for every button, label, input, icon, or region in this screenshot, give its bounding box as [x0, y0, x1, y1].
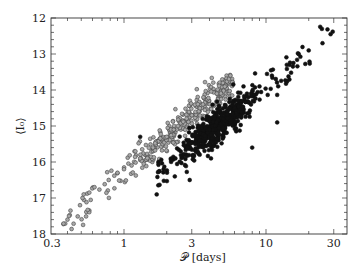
data-point [208, 117, 212, 121]
data-point [113, 186, 117, 190]
data-point [285, 63, 289, 67]
data-point [251, 88, 255, 92]
data-point [258, 98, 262, 102]
data-point [103, 182, 107, 186]
data-point [180, 112, 184, 116]
data-point [269, 68, 273, 72]
data-point [228, 97, 232, 101]
data-point [228, 89, 232, 93]
data-point [276, 84, 280, 88]
x-tick-label: 1 [121, 237, 128, 250]
data-point [87, 191, 91, 195]
data-point [184, 107, 188, 111]
data-point [239, 91, 243, 95]
data-point [191, 134, 195, 138]
data-point [117, 179, 121, 183]
data-point [159, 158, 163, 162]
data-point [134, 149, 138, 153]
data-point [270, 74, 274, 78]
data-point [224, 98, 228, 102]
data-point [93, 185, 97, 189]
data-point [188, 126, 192, 130]
data-point [289, 71, 293, 75]
data-point [287, 75, 291, 79]
data-point [215, 137, 219, 141]
data-point [251, 83, 255, 87]
data-point [219, 97, 223, 101]
data-point [72, 222, 76, 226]
data-point [307, 49, 311, 53]
data-point [217, 84, 221, 88]
data-point [187, 130, 191, 134]
data-point [139, 153, 143, 157]
data-point [246, 100, 250, 104]
data-point [198, 114, 202, 118]
data-point [202, 95, 206, 99]
data-point [70, 227, 74, 231]
data-point [62, 222, 66, 226]
data-point [152, 155, 156, 159]
data-point [210, 76, 214, 80]
data-point [174, 107, 178, 111]
data-point [173, 175, 177, 179]
data-point [239, 114, 243, 118]
data-point [157, 169, 161, 173]
y-tick-label: 18 [32, 228, 46, 241]
y-tick-label: 13 [32, 48, 46, 61]
data-point [209, 157, 213, 161]
data-point [231, 83, 235, 87]
data-point [84, 215, 88, 219]
data-point [185, 154, 189, 158]
data-point [208, 128, 212, 132]
data-point [165, 135, 169, 139]
data-point [242, 85, 246, 89]
data-point [207, 148, 211, 152]
data-point [169, 133, 173, 137]
data-point [221, 117, 225, 121]
y-tick-label: 14 [32, 84, 46, 97]
data-point [78, 203, 82, 207]
data-point [162, 167, 166, 171]
data-point [211, 128, 215, 132]
data-point [236, 99, 240, 103]
data-point [231, 112, 235, 116]
data-point [182, 143, 186, 147]
data-point [285, 55, 289, 59]
data-point [81, 196, 85, 200]
data-point [171, 141, 175, 145]
data-point [230, 94, 234, 98]
data-point [191, 154, 195, 158]
data-point [131, 171, 135, 175]
data-point [241, 105, 245, 109]
y-tick-label: 12 [32, 12, 46, 25]
data-point [220, 141, 224, 145]
data-point [215, 92, 219, 96]
data-point [188, 142, 192, 146]
data-point [152, 135, 156, 139]
data-point [284, 78, 288, 82]
data-point [264, 87, 268, 91]
data-point [196, 102, 200, 106]
data-point [203, 80, 207, 84]
data-point [140, 147, 144, 151]
data-point [153, 141, 157, 145]
data-point [165, 149, 169, 153]
data-point [221, 137, 225, 141]
data-point [185, 113, 189, 117]
data-point [81, 223, 85, 227]
data-point [253, 72, 257, 76]
black-sequence-points [138, 25, 334, 196]
data-point [275, 121, 279, 125]
y-axis-label: ⟨I₀⟩ [14, 117, 27, 134]
data-point [198, 106, 202, 110]
data-point [303, 62, 307, 66]
data-point [211, 103, 215, 107]
data-point [279, 79, 283, 83]
data-point [239, 123, 243, 127]
data-point [151, 146, 155, 150]
data-point [124, 179, 128, 183]
data-point [211, 81, 215, 85]
data-point [158, 129, 162, 133]
data-point [207, 96, 211, 100]
data-point [128, 153, 132, 157]
